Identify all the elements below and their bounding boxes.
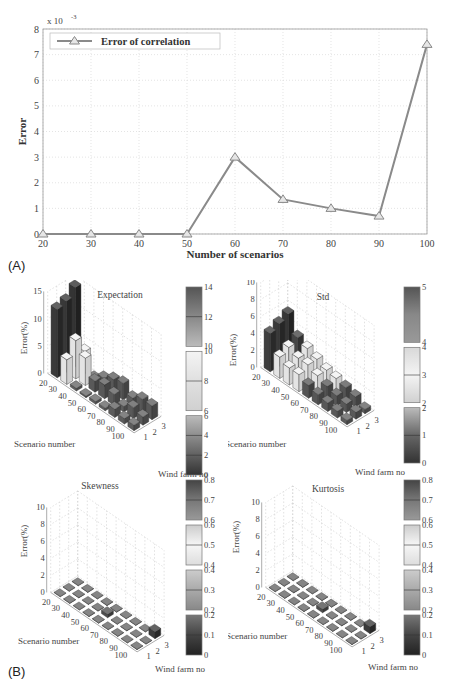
colorbar-tick-label: 4 [204, 430, 209, 440]
x-tick-label: 40 [134, 238, 144, 249]
scenario-tick-label: 100 [115, 650, 128, 660]
bar [326, 611, 338, 619]
wind-farm-tick-label: 3 [380, 635, 384, 645]
scenario-tick-label: 50 [286, 612, 295, 622]
y-tick-label: 7 [34, 49, 39, 60]
colorbar-tick-label: 0.8 [204, 477, 215, 485]
bar [297, 591, 309, 599]
colorbar-tick-label: 6 [204, 411, 208, 421]
bar [130, 629, 142, 637]
colorbar-tick-label: 0 [204, 650, 208, 660]
colorbar-tick-label: 0.7 [204, 495, 215, 505]
bar3d-expectation: 051015Error(%)2030405060708090100123Scen… [0, 280, 230, 480]
scenario-tick-label: 20 [252, 372, 261, 382]
z-tick-label: 15 [33, 286, 42, 296]
colorbar-tick-label: 0.2 [422, 610, 433, 620]
y-multiplier-exp: -3 [71, 13, 76, 20]
y-multiplier: x 10 [47, 16, 63, 26]
scenario-tick-label: 70 [90, 630, 99, 640]
z-tick-label: 2 [250, 345, 254, 355]
y-axis-label: Wind farm no [355, 467, 406, 477]
z-tick-label: 10 [36, 502, 45, 512]
y-tick-label: 3 [34, 152, 39, 163]
colorbar: 0.80.70.60.60.50.40.40.30.20.20.10 [404, 477, 433, 660]
z-tick-label: 4 [40, 553, 45, 563]
scenario-tick-label: 60 [295, 618, 304, 628]
chart-title: Std [317, 292, 330, 302]
scenario-tick-label: 30 [267, 598, 276, 608]
bar [336, 618, 348, 626]
bar [287, 573, 299, 581]
colorbar-segment [186, 416, 202, 475]
bar [80, 388, 92, 397]
colorbar-tick-label: 0.1 [204, 630, 215, 640]
y-tick-label: 8 [34, 24, 39, 35]
legend-label: Error of correlation [101, 36, 190, 47]
bar [63, 583, 75, 591]
bar3d-kurtosis: 0246810Error(%)2030405060708090100123Sce… [228, 477, 450, 686]
x-axis-label: Scenario number [228, 631, 287, 641]
scenario-tick-label: 50 [71, 617, 80, 627]
colorbar-tick-label: 2 [422, 403, 426, 413]
triangle-marker [230, 153, 240, 161]
scenario-tick-label: 40 [271, 385, 280, 395]
scenario-tick-label: 20 [257, 592, 266, 602]
colorbar: 54432210 [404, 282, 427, 468]
z-tick-label: 4 [255, 548, 260, 558]
colorbar-tick-label: 0.3 [422, 585, 433, 595]
colorbar-tick-label: 0.8 [422, 477, 433, 485]
bar [82, 596, 94, 604]
x-tick-label: 100 [420, 238, 435, 249]
colorbar-tick-label: 0 [422, 458, 426, 468]
bar [82, 584, 94, 592]
scenario-tick-label: 40 [276, 605, 285, 615]
z-tick-label: 5 [37, 341, 41, 351]
z-tick-label: 10 [246, 280, 255, 287]
colorbar-tick-label: 10 [204, 346, 213, 356]
y-tick-label: 2 [34, 177, 39, 188]
wind-farm-tick-label: 1 [362, 646, 366, 656]
y-axis-label: Error [16, 118, 28, 145]
scenario-tick-label: 70 [305, 625, 314, 635]
chart-expectation: 051015Error(%)2030405060708090100123Scen… [0, 280, 230, 480]
scenario-tick-label: 70 [300, 405, 309, 415]
colorbar-tick-label: 0.4 [422, 565, 433, 575]
z-tick-label: 10 [33, 314, 42, 324]
y-tick-label: 1 [34, 203, 39, 214]
y-axis-label: Wind farm no [368, 662, 419, 672]
bar3d-skewness: 0246810Error(%)2030405060708090100123Sce… [0, 477, 230, 686]
colorbar-tick-label: 0.3 [204, 585, 215, 595]
x-axis-label: Scenario number [18, 636, 79, 646]
z-tick-label: 2 [255, 565, 259, 575]
colorbar-tick-label: 1 [422, 430, 426, 440]
bar [345, 624, 357, 632]
z-tick-label: 6 [40, 536, 44, 546]
z-axis-label: Error(%) [19, 525, 29, 557]
x-tick-label: 20 [38, 238, 48, 249]
bar [111, 616, 123, 624]
wind-farm-tick-label: 3 [165, 640, 169, 650]
colorbar-tick-label: 0.4 [204, 565, 215, 575]
colorbar-tick-label: 0 [422, 650, 426, 660]
colorbar-tick-label: 0.5 [204, 540, 215, 550]
z-tick-label: 4 [250, 328, 255, 338]
z-axis-label: Error(%) [231, 521, 241, 553]
scenario-tick-label: 30 [52, 603, 61, 613]
scenario-tick-label: 80 [100, 636, 109, 646]
panel-b-label: (B) [8, 664, 25, 679]
scenario-tick-label: 40 [58, 391, 67, 401]
colorbar-segment [404, 287, 420, 342]
scenario-tick-label: 60 [77, 404, 86, 414]
y-axis-label: Wind farm no [155, 664, 206, 674]
colorbar-tick-label: 12 [204, 312, 213, 322]
bar [140, 636, 152, 644]
y-tick-label: 5 [34, 100, 39, 111]
z-tick-label: 2 [40, 570, 44, 580]
colorbar-tick-label: 0.1 [422, 630, 433, 640]
chart-title: Kurtosis [312, 484, 345, 494]
colorbar-tick-label: 2 [204, 450, 208, 460]
colorbar: 0.80.70.60.60.50.40.40.30.20.20.10 [186, 477, 215, 660]
wind-farm-tick-label: 2 [153, 427, 157, 437]
wind-farm-tick-label: 2 [371, 641, 375, 651]
scenario-tick-label: 40 [61, 610, 70, 620]
